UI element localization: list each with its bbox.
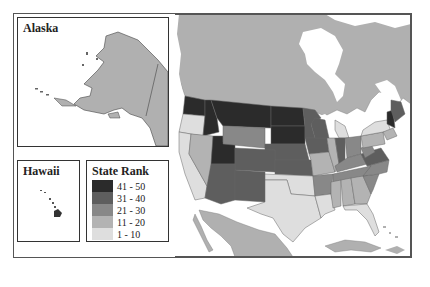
legend-item: 31 - 40 — [92, 192, 145, 204]
alaska-inset: Alaska — [17, 17, 169, 147]
legend-swatch — [92, 192, 113, 204]
state-IA — [305, 138, 329, 154]
alaska-title: Alaska — [23, 21, 58, 36]
legend-label: 31 - 40 — [117, 193, 145, 204]
legend-swatch — [92, 180, 113, 192]
main-map — [175, 14, 411, 257]
state-SD — [271, 126, 305, 144]
state-MS — [331, 180, 341, 208]
legend-swatch — [92, 216, 113, 228]
legend-items: 41 - 50 31 - 40 21 - 30 11 - 20 1 - 10 — [92, 180, 145, 240]
legend-item: 1 - 10 — [92, 228, 145, 240]
legend-item: 41 - 50 — [92, 180, 145, 192]
legend-swatch — [92, 228, 113, 240]
alaska-map — [18, 18, 168, 146]
state-NM — [235, 170, 265, 202]
state-ND — [271, 106, 305, 126]
legend-item: 11 - 20 — [92, 216, 145, 228]
legend-label: 21 - 30 — [117, 205, 145, 216]
state-KS — [275, 160, 313, 176]
legend-label: 11 - 20 — [117, 217, 145, 228]
legend-swatch — [92, 204, 113, 216]
legend-label: 41 - 50 — [117, 181, 145, 192]
north-america-map — [175, 14, 411, 257]
hawaii-title: Hawaii — [23, 164, 60, 179]
legend: State Rank 41 - 50 31 - 40 21 - 30 11 - … — [86, 160, 169, 242]
state-WY — [223, 126, 265, 148]
hawaii-inset: Hawaii — [17, 160, 80, 242]
legend-title: State Rank — [92, 164, 149, 179]
legend-label: 1 - 10 — [117, 229, 140, 240]
state-AR — [313, 174, 333, 196]
legend-item: 21 - 30 — [92, 204, 145, 216]
state-CO — [235, 148, 275, 172]
